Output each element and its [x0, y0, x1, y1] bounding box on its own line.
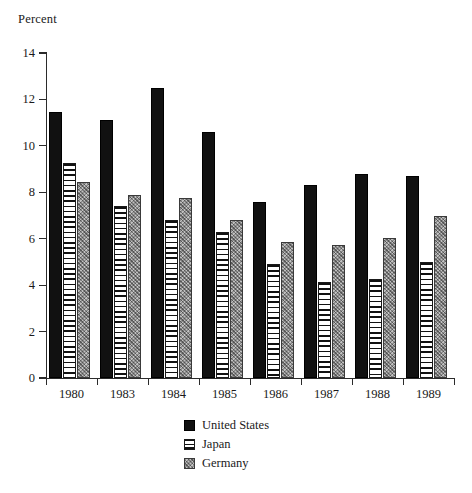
bar-japan-1989 — [420, 262, 433, 378]
bar-germany-1989 — [434, 216, 447, 379]
legend-label: Japan — [202, 438, 230, 451]
bar-chart-figure: Percent 02468101214 19801983198419851986… — [0, 0, 472, 493]
chart-legend: United States Japan Germany — [184, 416, 269, 473]
legend-item-germany: Germany — [184, 454, 269, 473]
horizontal-stripe-swatch-icon — [184, 439, 195, 450]
x-axis-tick — [454, 378, 455, 385]
x-axis-tick — [199, 378, 200, 385]
legend-item-united-states: United States — [184, 416, 269, 435]
y-axis-tick-label: 6 — [10, 233, 35, 246]
y-axis-tick-label: 4 — [10, 279, 35, 292]
y-axis-title: Percent — [18, 12, 57, 27]
y-axis-tick-label: 14 — [10, 47, 35, 60]
x-axis-tick-label: 1989 — [399, 388, 459, 401]
y-axis-tick-label: 12 — [10, 93, 35, 106]
x-axis-tick — [352, 378, 353, 385]
legend-label: Germany — [202, 457, 249, 470]
y-axis-tick-label: 10 — [10, 140, 35, 153]
bar-japan-1987 — [318, 282, 331, 378]
bar-germany-1987 — [332, 245, 345, 378]
bar-japan-1985 — [216, 232, 229, 378]
bar-united-states-1988 — [355, 174, 368, 378]
solid-black-swatch-icon — [184, 420, 195, 431]
bar-germany-1983 — [128, 195, 141, 378]
gray-stipple-swatch-icon — [184, 458, 195, 469]
bar-germany-1980 — [77, 182, 90, 378]
bar-united-states-1984 — [151, 88, 164, 378]
x-axis-tick — [148, 378, 149, 385]
x-axis-tick — [97, 378, 98, 385]
bar-united-states-1983 — [100, 120, 113, 378]
y-axis-tick-label: 8 — [10, 186, 35, 199]
x-axis-tick — [250, 378, 251, 385]
bar-germany-1985 — [230, 220, 243, 378]
bar-japan-1986 — [267, 264, 280, 378]
bar-japan-1984 — [165, 220, 178, 378]
x-axis-tick — [301, 378, 302, 385]
y-axis-tick-label: 0 — [10, 372, 35, 385]
bar-japan-1983 — [114, 206, 127, 378]
bar-japan-1988 — [369, 279, 382, 378]
bar-united-states-1989 — [406, 176, 419, 378]
x-axis-tick — [46, 378, 47, 385]
legend-label: United States — [202, 419, 269, 432]
bar-germany-1984 — [179, 198, 192, 378]
bar-japan-1980 — [63, 163, 76, 378]
y-axis-tick-label: 2 — [10, 326, 35, 339]
bar-united-states-1987 — [304, 185, 317, 378]
x-axis-tick — [403, 378, 404, 385]
bar-united-states-1986 — [253, 202, 266, 378]
bar-germany-1988 — [383, 238, 396, 378]
bar-united-states-1985 — [202, 132, 215, 378]
legend-item-japan: Japan — [184, 435, 269, 454]
bar-germany-1986 — [281, 242, 294, 378]
bar-united-states-1980 — [49, 112, 62, 378]
plot-area — [46, 53, 454, 378]
